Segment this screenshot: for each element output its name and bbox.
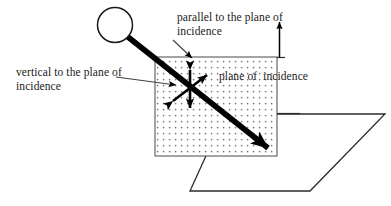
label-plane-of-incidence: plane of incidence — [219, 70, 339, 84]
light-source-circle — [98, 8, 133, 43]
parallel-label-leader — [173, 40, 192, 58]
label-parallel-to-plane: parallel to the plane of incidence — [177, 11, 297, 38]
label-vertical-to-plane: vertical to the plane of incidence — [16, 66, 146, 93]
